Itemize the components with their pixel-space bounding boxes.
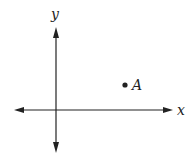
y-axis-label: y [50,6,60,22]
point-a-label: A [130,77,142,93]
x-axis-label: x [177,102,185,118]
x-axis-right-arrow-icon [163,107,173,113]
y-axis-down-arrow-icon [53,142,59,153]
y-axis-up-arrow-icon [53,27,59,38]
point-a-marker [122,82,127,87]
x-axis-left-arrow-icon [14,107,24,113]
coordinate-plane-diagram: y x A [0,0,194,162]
coordinate-plane-svg: y x A [0,0,194,162]
x-axis [14,107,173,113]
y-axis [53,27,59,153]
